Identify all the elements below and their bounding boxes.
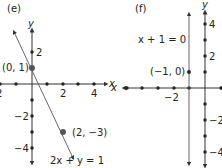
panel-f-y-tick-neg4: −4 <box>209 147 222 158</box>
panel-e-point-0-1-label: (0, 1) <box>2 62 29 73</box>
panel-f-y-tick-2: 2 <box>209 51 215 62</box>
panel-f-x-axis-label: x <box>110 82 117 93</box>
panel-f-point-neg1-0 <box>187 70 191 74</box>
panel-f-label: (f) <box>135 3 146 14</box>
panel-e-y-axis-label: y <box>27 18 35 29</box>
panel-f: (f) x y −2 4 2 −2 <box>110 0 222 166</box>
panel-f-y-axis-label: y <box>201 0 209 10</box>
panel-e-x-tick-4: 4 <box>91 88 97 99</box>
panel-e-y-tick-neg2: −2 <box>14 111 29 122</box>
panel-f-y-tick-4: 4 <box>209 19 215 30</box>
panel-f-equation: x + 1 = 0 <box>138 34 186 45</box>
panel-e-x-tick-2: 2 <box>60 88 66 99</box>
panel-e-point-2-neg3-label: (2, −3) <box>72 127 107 138</box>
graph-figure: (e) x y 2 2 4 2 −2 −4 <box>0 0 222 168</box>
panel-e-x-tick-neg2: 2 <box>0 88 2 99</box>
panel-f-x-tick-neg2: −2 <box>164 92 179 103</box>
panel-f-y-tick-neg2: −2 <box>209 115 222 126</box>
panel-e-y-tick-2: 2 <box>36 47 42 58</box>
panel-e-label: (e) <box>7 3 21 14</box>
panel-e-point-0-1 <box>29 65 35 71</box>
panel-e-y-tick-neg4: −4 <box>14 143 29 154</box>
panel-f-point-neg1-0-label: (−1, 0) <box>150 66 185 77</box>
panel-e-point-2-neg3 <box>60 129 66 135</box>
panel-e-equation: 2x + y = 1 <box>50 155 104 166</box>
panel-e: (e) x y 2 2 4 2 −2 −4 <box>0 3 115 166</box>
